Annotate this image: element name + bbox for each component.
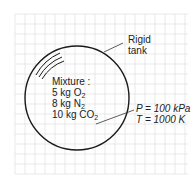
tank-label: Rigid tank <box>128 34 151 56</box>
tank-label-line2: tank <box>128 45 151 56</box>
component-co2: 10 kg CO2 <box>52 109 98 120</box>
tank-leader-line <box>104 43 123 52</box>
component-o2: 5 kg O2 <box>52 87 98 98</box>
tank-label-line1: Rigid <box>128 34 151 45</box>
mixture-label: Mixture : 5 kg O2 8 kg N2 10 kg CO2 <box>52 76 98 120</box>
mixture-title: Mixture : <box>52 76 98 87</box>
state-label: P = 100 kPa T = 1000 K <box>136 103 190 125</box>
temperature-value: T = 1000 K <box>136 114 190 125</box>
grid-background <box>15 14 188 174</box>
component-n2: 8 kg N2 <box>52 98 98 109</box>
pressure-value: P = 100 kPa <box>136 103 190 114</box>
